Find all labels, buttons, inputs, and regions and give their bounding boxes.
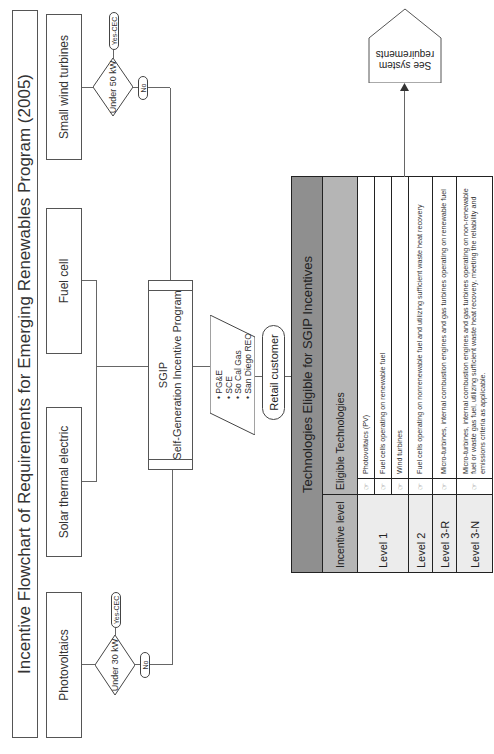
table-title: Technologies Eligible for SGIP Incentive…	[292, 176, 323, 572]
sgip-box: SGIP Self-Generation Incentive Program	[148, 280, 193, 470]
decision-label: Under 30 kW	[95, 635, 135, 695]
tech-cell: Wind turbines	[392, 176, 409, 478]
see-requirements-label: See system requirements	[370, 39, 440, 81]
connector	[113, 50, 114, 58]
connector	[172, 470, 173, 665]
connector	[82, 87, 93, 88]
flowchart-canvas: Incentive Flowchart of Requirements for …	[0, 0, 494, 754]
tech-cell: Micro-turbines, internal combustion engi…	[457, 176, 493, 478]
utilities-list: • PG&E • SCE • So Cal Gas • San Diego RE…	[215, 333, 253, 399]
utilities-parallelogram: • PG&E • SCE • So Cal Gas • San Diego RE…	[210, 315, 255, 435]
no-pill-pv: No	[140, 652, 150, 678]
tech-label: Fuel cell	[57, 259, 71, 304]
retail-label: Retail customer	[268, 334, 280, 410]
tech-cell: Fuel cells operating on renewable fuel	[375, 176, 392, 478]
pill-label: Yes-CEC	[111, 17, 118, 46]
sgip-name: Self-Generation Incentive Program	[171, 281, 183, 469]
table-row: Level 1 ☞ Photovoltaics (PV)	[358, 176, 375, 572]
tech-cell: Micro-turbines, internal combustion engi…	[433, 176, 457, 478]
see-requirements-text: See system requirements	[376, 49, 434, 71]
table-row: Level 3-N ☞ Micro-turbines, internal com…	[457, 176, 493, 572]
tech-label: Solar thermal electric	[57, 426, 71, 539]
table-row: Level 2 ☞ Fuel cells operating on nonren…	[409, 176, 433, 572]
no-pill-wind: No	[138, 76, 148, 100]
tech-label: Photovoltaics	[57, 629, 71, 700]
level-cell: Level 1	[358, 495, 409, 573]
connector	[96, 366, 148, 367]
pill-label: No	[140, 84, 147, 93]
pill-label: Yes-CEC	[113, 596, 120, 625]
page-title: Incentive Flowchart of Requirements for …	[12, 10, 38, 738]
table-row: Level 3-R ☞ Micro-turbines, internal com…	[433, 176, 457, 572]
pill-label: No	[142, 661, 149, 670]
tech-box-small-wind: Small wind turbines	[46, 14, 82, 160]
connector	[193, 366, 210, 367]
hand-pointer-icon: ☞	[392, 479, 409, 495]
level-cell: Level 3-R	[433, 495, 457, 573]
tech-label: Small wind turbines	[57, 35, 71, 139]
arrow-line	[404, 87, 405, 177]
yes-cec-pill-wind: Yes-CEC	[109, 12, 119, 50]
connector	[148, 87, 170, 88]
connector	[82, 481, 96, 482]
hand-pointer-icon: ☞	[375, 479, 392, 495]
connector	[82, 664, 95, 665]
decision-label: Under 50 kW	[93, 58, 133, 116]
tech-box-photovoltaics: Photovoltaics	[46, 592, 82, 738]
hand-pointer-icon: ☞	[433, 479, 457, 495]
eligibility-table: Technologies Eligible for SGIP Incentive…	[291, 176, 493, 573]
title-text: Incentive Flowchart of Requirements for …	[15, 74, 35, 674]
sgip-acronym: SGIP	[157, 281, 169, 469]
connector	[82, 280, 96, 281]
hand-pointer-icon: ☞	[358, 479, 375, 495]
decision-wind: Under 50 kW	[93, 58, 133, 116]
hand-pointer-icon: ☞	[409, 479, 433, 495]
tech-cell: Fuel cells operating on nonrenewable fue…	[409, 176, 433, 478]
utility-item: • San Diego REO	[244, 333, 254, 399]
connector	[115, 628, 116, 635]
decision-pv: Under 30 kW	[95, 635, 135, 695]
tech-cell: Photovoltaics (PV)	[358, 176, 375, 478]
yes-cec-pill-pv: Yes-CEC	[111, 592, 121, 628]
connector	[255, 376, 262, 377]
level-cell: Level 3-N	[457, 495, 493, 573]
connector	[150, 664, 172, 665]
tech-box-solar-thermal: Solar thermal electric	[46, 407, 82, 557]
header-tech: Eligible Technologies	[323, 176, 358, 494]
hand-pointer-icon: ☞	[457, 479, 493, 495]
retail-customer: Retail customer	[262, 325, 285, 420]
tech-box-fuel-cell: Fuel cell	[46, 208, 82, 354]
header-level: Incentive level	[323, 495, 358, 573]
level-cell: Level 2	[409, 495, 433, 573]
connector	[170, 88, 171, 280]
arrow-head-icon	[400, 83, 409, 91]
connector	[96, 280, 97, 482]
